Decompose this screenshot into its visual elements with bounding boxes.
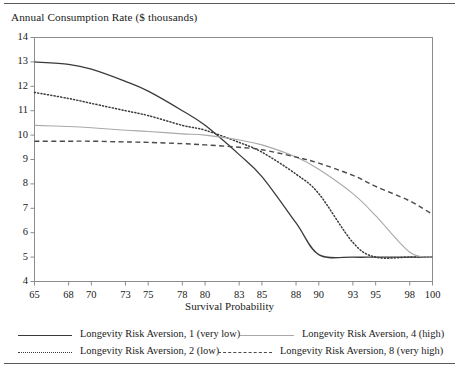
legend-swatch-dotted-icon — [18, 352, 72, 355]
x-axis-tick-label: 70 — [75, 289, 107, 300]
x-axis-tick-label: 65 — [19, 289, 51, 300]
legend-swatch-solid-light-icon — [240, 335, 294, 338]
y-axis-tick-label: 8 — [8, 177, 28, 188]
y-axis-tick-label: 12 — [8, 80, 28, 91]
chart-series-line-3 — [35, 141, 433, 214]
y-axis-tick-label: 5 — [8, 251, 28, 262]
legend-swatch-solid-icon — [18, 335, 72, 338]
x-axis-tick-label: 80 — [189, 289, 221, 300]
x-axis-tick-label: 95 — [360, 289, 392, 300]
x-axis-tick-label: 85 — [246, 289, 278, 300]
y-axis-tick-label: 13 — [8, 55, 28, 66]
y-axis-tick-label: 7 — [8, 202, 28, 213]
y-axis-tick-label: 4 — [8, 275, 28, 286]
legend-label-1: Longevity Risk Aversion, 4 (high) — [302, 328, 444, 339]
y-axis-tick-label: 6 — [8, 226, 28, 237]
x-axis-tick-label: 100 — [417, 289, 449, 300]
legend-label-2: Longevity Risk Aversion, 2 (low) — [80, 345, 219, 356]
legend-label-0: Longevity Risk Aversion, 1 (very low) — [80, 328, 240, 339]
chart-plot-area — [0, 0, 459, 368]
y-axis-tick-label: 9 — [8, 153, 28, 164]
chart-series-line-1 — [35, 92, 433, 258]
chart-series-line-0 — [35, 62, 433, 258]
chart-series-line-2 — [35, 125, 433, 257]
legend-swatch-dashed-icon — [218, 352, 272, 355]
figure-container: Annual Consumption Rate ($ thousands) Su… — [0, 0, 459, 368]
y-axis-tick-label: 14 — [8, 31, 28, 42]
chart-legend: Longevity Risk Aversion, 1 (very low) Lo… — [0, 327, 459, 361]
bottom-divider-rule — [4, 363, 455, 364]
y-axis-tick-label: 11 — [8, 104, 28, 115]
x-axis-title: Survival Probability — [0, 300, 459, 312]
x-axis-tick-label: 90 — [303, 289, 335, 300]
legend-label-3: Longevity Risk Aversion, 8 (very high) — [280, 345, 443, 356]
y-axis-tick-label: 10 — [8, 129, 28, 140]
x-axis-tick-label: 75 — [132, 289, 164, 300]
